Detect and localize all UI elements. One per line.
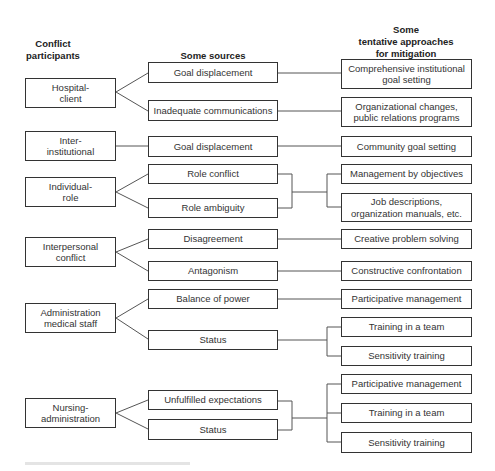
mitigation-sensitivity-training-2: Sensitivity training xyxy=(341,432,472,453)
box-line: Interpersonal xyxy=(43,241,98,253)
participant-hospital-client: Hospital-client xyxy=(25,78,116,108)
box-line: Comprehensive institutional xyxy=(348,63,465,75)
mitigation-job-descriptions: Job descriptions,organization manuals, e… xyxy=(341,193,472,222)
box-line: medical staff xyxy=(40,318,100,330)
participant-administration-medical-staff: Administrationmedical staff xyxy=(25,303,116,333)
faded-caption xyxy=(25,462,190,465)
box-line: Goal displacement xyxy=(174,141,253,153)
box-line: Inter- xyxy=(47,135,95,147)
box-line: organization manuals, etc. xyxy=(351,208,462,220)
box-line: Management by objectives xyxy=(350,168,463,180)
source-status-2: Status xyxy=(148,419,278,440)
mitigation-creative-problem-solving: Creative problem solving xyxy=(341,229,472,249)
box-line: administration xyxy=(41,413,100,425)
participant-interpersonal-conflict: Interpersonalconflict xyxy=(25,237,116,267)
box-line: Nursing- xyxy=(41,402,100,414)
box-line: conflict xyxy=(43,252,98,264)
box-line: Status xyxy=(200,334,227,346)
box-line: Status xyxy=(200,424,227,436)
mitigation-participative-management-2: Participative management xyxy=(341,374,472,394)
source-antagonism: Antagonism xyxy=(148,261,278,281)
mitigation-sensitivity-training: Sensitivity training xyxy=(341,346,472,366)
box-line: Sensitivity training xyxy=(368,437,445,449)
box-line: Hospital- xyxy=(52,82,90,94)
box-line: Role conflict xyxy=(187,168,239,180)
box-line: Disagreement xyxy=(183,233,242,245)
box-line: Administration xyxy=(40,307,100,319)
box-line: public relations programs xyxy=(353,112,459,124)
box-line: Individual- xyxy=(49,181,92,193)
mitigation-training-in-a-team-2: Training in a team xyxy=(341,403,472,423)
mitigation-training-in-a-team: Training in a team xyxy=(341,317,472,337)
box-line: Training in a team xyxy=(369,407,445,419)
participant-individual-role: Individual-role xyxy=(25,177,116,207)
box-line: institutional xyxy=(47,146,95,158)
box-line: Sensitivity training xyxy=(368,350,445,362)
box-line: Organizational changes, xyxy=(353,101,459,113)
box-line: role xyxy=(49,192,92,204)
source-status: Status xyxy=(148,330,278,350)
box-line: Unfulfilled expectations xyxy=(164,394,262,406)
box-line: goal setting xyxy=(348,74,465,86)
box-line: Balance of power xyxy=(176,293,249,305)
source-unfulfilled-expectations: Unfulfilled expectations xyxy=(148,390,278,410)
box-line: Participative management xyxy=(352,378,462,390)
mitigation-constructive-confrontation: Constructive confrontation xyxy=(341,261,472,281)
box-line: Job descriptions, xyxy=(351,196,462,208)
mitigation-organizational-changes: Organizational changes,public relations … xyxy=(341,97,472,127)
mitigation-community-goal-setting: Community goal setting xyxy=(341,136,472,157)
mitigation-comprehensive-goal-setting: Comprehensive institutionalgoal setting xyxy=(341,59,472,89)
box-line: Participative management xyxy=(352,293,462,305)
box-line: Inadequate communications xyxy=(154,105,273,117)
source-role-conflict: Role conflict xyxy=(148,164,278,184)
mitigation-management-by-objectives: Management by objectives xyxy=(341,164,472,184)
box-line: Goal displacement xyxy=(174,67,253,79)
box-line: Antagonism xyxy=(188,265,238,277)
source-goal-displacement-2: Goal displacement xyxy=(148,136,278,157)
box-line: Community goal setting xyxy=(357,141,456,153)
box-line: Role ambiguity xyxy=(182,202,245,214)
participant-nursing-administration: Nursing-administration xyxy=(25,398,116,428)
box-line: Training in a team xyxy=(369,321,445,333)
mitigation-participative-management: Participative management xyxy=(341,289,472,309)
source-disagreement: Disagreement xyxy=(148,229,278,249)
participant-inter-institutional: Inter-institutional xyxy=(25,131,116,161)
box-line: client xyxy=(52,93,90,105)
source-balance-of-power: Balance of power xyxy=(148,289,278,309)
source-goal-displacement: Goal displacement xyxy=(148,62,278,83)
box-line: Constructive confrontation xyxy=(351,265,461,277)
box-line: Creative problem solving xyxy=(354,233,459,245)
source-inadequate-communications: Inadequate communications xyxy=(148,100,278,121)
source-role-ambiguity: Role ambiguity xyxy=(148,198,278,218)
